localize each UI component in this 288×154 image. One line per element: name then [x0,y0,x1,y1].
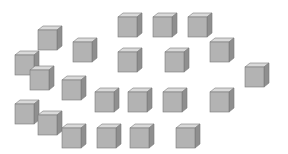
cube-icon [187,12,213,38]
cube-icon [117,12,143,38]
cube-icon [175,123,201,149]
cube-icon [37,110,63,136]
cube-icon [96,123,122,149]
cube-icon [209,87,235,113]
cube-icon [72,37,98,63]
cube-icon [37,25,63,51]
cube-icon [209,37,235,63]
cube-icon [164,47,190,73]
cube-icon [129,123,155,149]
cube-icon [152,12,178,38]
cube-icon [94,87,120,113]
cube-icon [117,47,143,73]
cube-icon [61,123,87,149]
cube-icon [127,87,153,113]
cube-icon [162,87,188,113]
cube-scene [0,0,288,154]
cube-icon [244,62,270,88]
cube-icon [29,65,55,91]
cube-icon [61,75,87,101]
